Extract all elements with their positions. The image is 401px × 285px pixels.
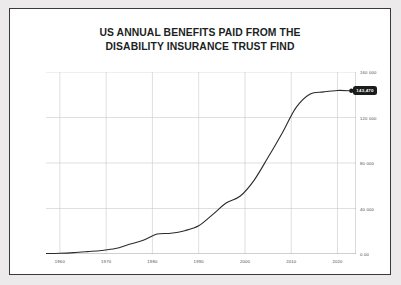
- endpoint-value-badge: 143,470: [353, 86, 376, 95]
- x-axis-tick-label: 1980: [147, 259, 157, 264]
- y-axis-tick-label: 0.00: [360, 252, 369, 257]
- x-axis-tick-label: 2020: [332, 259, 342, 264]
- plot-area: [46, 72, 356, 254]
- x-axis-tick-label: 2000: [240, 259, 250, 264]
- y-axis-tick-label: 40 000: [360, 206, 374, 211]
- x-axis-tick-label: 1960: [55, 259, 65, 264]
- y-axis-tick-label: 160 000: [360, 70, 377, 75]
- x-axis-tick-label: 2010: [286, 259, 296, 264]
- x-axis-tick-label: 1990: [194, 259, 204, 264]
- y-axis-tick-label: 120 000: [360, 115, 377, 120]
- grid-lines: [46, 72, 356, 254]
- chart-title: US ANNUAL BENEFITS PAID FROM THE DISABIL…: [29, 26, 371, 53]
- y-axis-tick-label: 80 000: [360, 161, 374, 166]
- chart-plot-svg: [46, 72, 356, 254]
- x-axis-tick-label: 1970: [101, 259, 111, 264]
- chart-figure-frame: US ANNUAL BENEFITS PAID FROM THE DISABIL…: [9, 8, 391, 275]
